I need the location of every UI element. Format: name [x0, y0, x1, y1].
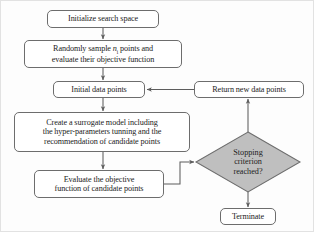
flowchart-canvas: Initialize search space Randomly sample …: [0, 0, 314, 232]
node-return-new-data-points[interactable]: Return new data points: [194, 81, 304, 98]
sample-line1-suffix: points and: [118, 44, 153, 53]
node-evaluate-objective-function[interactable]: Evaluate the objective function of candi…: [34, 170, 164, 198]
node-randomly-sample[interactable]: Randomly sample ni points andevaluate th…: [24, 40, 182, 68]
node-evaluate-objective-function-label: Evaluate the objective function of candi…: [35, 175, 163, 193]
node-return-new-data-points-label: Return new data points: [195, 85, 303, 94]
node-initialize-search-space[interactable]: Initialize search space: [47, 10, 159, 28]
node-initial-data-points-label: Initial data points: [54, 85, 144, 94]
edge-evaluate-to-stopping: [164, 162, 194, 184]
node-create-surrogate-model[interactable]: Create a surrogate model including the h…: [14, 112, 190, 152]
node-terminate-label: Terminate: [221, 212, 275, 221]
node-initialize-search-space-label: Initialize search space: [48, 14, 158, 23]
sample-line1-prefix: Randomly sample: [53, 44, 113, 53]
node-initial-data-points[interactable]: Initial data points: [53, 81, 145, 98]
node-randomly-sample-label: Randomly sample ni points andevaluate th…: [25, 44, 181, 65]
node-create-surrogate-model-label: Create a surrogate model including the h…: [15, 118, 189, 146]
stopping-criterion-diamond-shape[interactable]: [196, 132, 300, 192]
sample-line2: evaluate their objective function: [52, 55, 154, 64]
node-terminate[interactable]: Terminate: [220, 208, 276, 225]
